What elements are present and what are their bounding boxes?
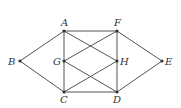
node-label-B: B [7,56,15,67]
node-F [115,29,118,32]
node-label-G: G [53,56,61,67]
node-E [160,59,163,62]
node-label-F: F [113,17,122,28]
edges [20,31,162,92]
nodes [18,29,163,93]
graph-diagram: ABCDEFGH [0,0,181,108]
node-label-D: D [112,94,121,105]
node-label-A: A [60,17,68,28]
node-B [18,59,21,62]
node-A [62,29,65,32]
node-label-C: C [60,94,68,105]
node-H [115,59,118,62]
node-label-H: H [119,56,129,67]
node-G [62,59,65,62]
node-label-E: E [164,56,173,67]
